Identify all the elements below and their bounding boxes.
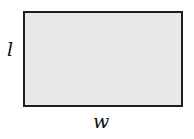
rectangle-shape (23, 11, 183, 107)
width-label: w (93, 112, 109, 131)
length-label: l (7, 40, 13, 59)
